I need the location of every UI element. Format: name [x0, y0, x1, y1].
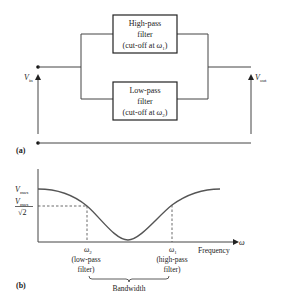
part-b-label: (b): [16, 281, 26, 290]
sqrt2-label: √2: [18, 208, 26, 217]
part-a-label: (a): [16, 146, 26, 155]
omega1-desc-line2: filter): [163, 265, 181, 274]
frequency-response-chart: Vmax Vmax √2 ω Frequency ω2 (low-pass fi…: [15, 169, 245, 293]
vin-label: Vin: [24, 73, 33, 83]
bandwidth-bracket: [89, 276, 169, 282]
filter-diagram: High-pass filter (cut-off at ω1) Low-pas…: [0, 0, 281, 308]
vmax-root-numerator: Vmax: [15, 197, 29, 207]
omega2-desc-line2: filter): [77, 265, 95, 274]
circuit-block-diagram: High-pass filter (cut-off at ω1) Low-pas…: [16, 15, 267, 155]
hp-line1: High-pass: [129, 19, 161, 28]
vout-label: Vout: [255, 73, 267, 83]
omega-axis-symbol: ω: [239, 238, 245, 247]
lp-line1: Low-pass: [129, 86, 160, 95]
hp-line2: filter: [137, 30, 153, 39]
frequency-label: Frequency: [198, 246, 230, 255]
hp-line3: (cut-off at ω1): [123, 41, 168, 51]
response-curve: [38, 189, 220, 240]
vmax-label: Vmax: [15, 185, 29, 195]
lp-line3: (cut-off at ω2): [123, 108, 168, 118]
omega1-label: ω1: [169, 245, 177, 255]
omega1-desc-line1: (high-pass: [156, 255, 187, 264]
omega2-desc-line1: (low-pass: [71, 255, 100, 264]
lp-line2: filter: [137, 97, 153, 106]
bandwidth-label: Bandwidth: [113, 284, 146, 293]
omega2-label: ω2: [84, 245, 92, 255]
